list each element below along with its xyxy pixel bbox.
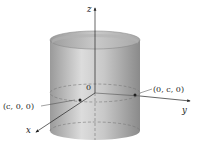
point-0-c-0-dot — [134, 94, 137, 97]
y-axis — [140, 96, 190, 101]
y-axis-label: y — [181, 105, 187, 115]
point-c-0-0-label: (c, 0, 0) — [3, 102, 34, 111]
z-axis-label: z — [86, 4, 92, 14]
point-0-c-0-label: (0, c, 0) — [153, 85, 184, 94]
origin-label: 0 — [86, 83, 91, 92]
x-axis-label: x — [26, 125, 31, 135]
point-c-0-0-dot — [79, 99, 82, 102]
leader-0-c-0 — [140, 89, 152, 93]
cylinder-diagram: z y x 0 (c, 0, 0) (0, c, 0) — [0, 0, 201, 159]
